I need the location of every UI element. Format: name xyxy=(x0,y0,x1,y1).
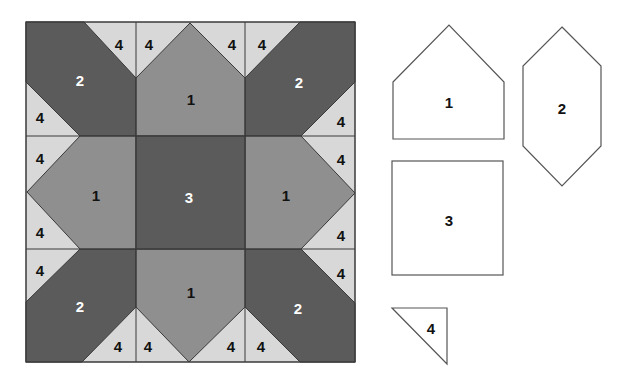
label-corner-top-right: 2 xyxy=(295,74,303,91)
label-side-left: 1 xyxy=(92,187,100,204)
label-side-bottom: 1 xyxy=(187,284,195,301)
template-label-2: 2 xyxy=(558,100,566,117)
label-triangle: 4 xyxy=(228,36,237,53)
label-triangle: 4 xyxy=(258,36,267,53)
label-center: 3 xyxy=(185,189,193,206)
template-piece-4 xyxy=(392,308,447,364)
quilt-diagram: 2 2 2 2 1 1 1 1 3 4 4 4 4 4 4 4 4 4 4 4 … xyxy=(0,0,632,385)
template-label-1: 1 xyxy=(445,94,453,111)
label-corner-bottom-right: 2 xyxy=(294,300,302,317)
label-triangle: 4 xyxy=(227,338,236,355)
label-triangle: 4 xyxy=(145,36,154,53)
label-triangle: 4 xyxy=(144,338,153,355)
label-triangle: 4 xyxy=(36,150,45,167)
template-piece-1 xyxy=(393,25,504,139)
label-corner-bottom-left: 2 xyxy=(76,298,84,315)
label-triangle: 4 xyxy=(36,224,45,241)
template-label-4: 4 xyxy=(427,320,436,337)
label-triangle: 4 xyxy=(337,227,346,244)
label-triangle: 4 xyxy=(337,113,346,130)
label-triangle: 4 xyxy=(337,265,346,282)
label-triangle: 4 xyxy=(114,338,123,355)
label-triangle: 4 xyxy=(36,109,45,126)
label-corner-top-left: 2 xyxy=(76,72,84,89)
template-label-3: 3 xyxy=(445,212,453,229)
templates xyxy=(392,25,601,364)
label-side-right: 1 xyxy=(282,187,290,204)
label-triangle: 4 xyxy=(257,338,266,355)
label-triangle: 4 xyxy=(337,151,346,168)
label-side-top: 1 xyxy=(187,91,195,108)
label-triangle: 4 xyxy=(36,262,45,279)
label-triangle: 4 xyxy=(115,36,124,53)
